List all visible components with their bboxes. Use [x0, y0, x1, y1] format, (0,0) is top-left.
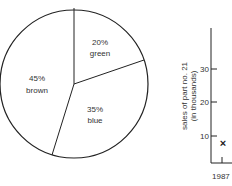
xtick-1987: 1987 [212, 172, 230, 181]
ytick-20: 20 [200, 98, 209, 107]
ylabel-line2: (in thousands) [189, 70, 198, 121]
ylabel-line1: sales of part no. 21 [180, 61, 189, 130]
figure: 20% green 35% blue 45% brown 30 20 10 19… [0, 0, 232, 186]
blue-label: blue [87, 116, 103, 125]
green-label: green [90, 49, 110, 58]
brown-pct: 45% [29, 74, 45, 83]
sales-chart: 30 20 10 1987 × sales of part no. 21 (in… [180, 28, 232, 181]
blue-pct: 35% [87, 105, 103, 114]
pie-chart: 20% green 35% blue 45% brown [0, 8, 148, 158]
green-pct: 20% [92, 38, 108, 47]
ytick-10: 10 [200, 132, 209, 141]
brown-label: brown [26, 86, 48, 95]
ytick-30: 30 [200, 65, 209, 74]
data-marker: × [220, 137, 226, 149]
